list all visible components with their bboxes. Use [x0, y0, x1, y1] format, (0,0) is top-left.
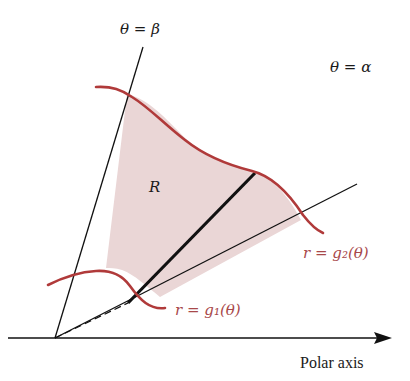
label-region-r: R — [149, 180, 160, 195]
label-polar-axis: Polar axis — [300, 355, 364, 371]
label-inner-curve: r = g₁(θ) — [175, 303, 241, 318]
dashed-radial-segment — [55, 303, 128, 338]
label-outer-curve: r = g₂(θ) — [303, 246, 369, 261]
region-r-fill — [106, 94, 301, 297]
label-theta-beta: θ = β — [120, 22, 160, 37]
label-theta-alpha: θ = α — [330, 60, 371, 75]
